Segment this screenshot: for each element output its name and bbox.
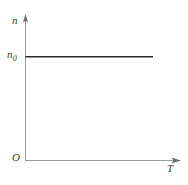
x-axis-label: T — [167, 163, 173, 174]
constant-function-plot: n T O n0 — [0, 0, 188, 185]
y-tick-subscript: 0 — [13, 54, 17, 63]
origin-label: O — [12, 152, 20, 163]
y-tick-label-n0: n0 — [7, 49, 17, 62]
y-tick-base: n — [7, 48, 13, 60]
plot-canvas — [0, 0, 188, 185]
y-axis-label: n — [12, 15, 18, 26]
